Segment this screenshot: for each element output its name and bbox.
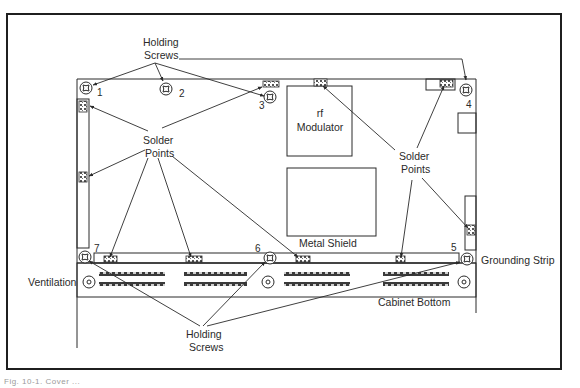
screw-number-4: 4: [466, 99, 472, 110]
screw-number-2: 2: [179, 88, 185, 99]
figure-frame: [7, 14, 561, 369]
holding-screws-top-label-line2: Screws: [144, 49, 178, 61]
screw-number-3: 3: [259, 100, 265, 111]
diagram-canvas: 1 2 3 4 5 6 7 Holding Screws Solder Poin…: [0, 0, 580, 388]
screw-5: [461, 253, 473, 265]
screw-number-7: 7: [94, 243, 100, 254]
holding-screws-bottom-label-line2: Screws: [189, 341, 223, 353]
screw-6: [264, 252, 276, 264]
holding-screws-bottom-label-line1: Holding: [186, 328, 222, 340]
figure-caption: Fig. 10-1. Cover ...: [4, 377, 80, 388]
cabinet-bottom-label: Cabinet Bottom: [378, 296, 451, 308]
holding-screws-top-label-line1: Holding: [143, 36, 179, 48]
solder-points-right-label-line2: Points: [401, 163, 430, 175]
solder-points-left-label-line1: Solder: [143, 134, 174, 146]
screw-number-1: 1: [97, 87, 103, 98]
rf-modulator-label-line2: Modulator: [297, 121, 344, 133]
screw-number-6: 6: [255, 243, 261, 254]
screw-2: [160, 83, 172, 95]
rf-modulator-label-line1: rf: [317, 107, 323, 119]
solder-points-left-label-line2: Points: [145, 147, 174, 159]
screw-4: [460, 84, 472, 96]
solder-points-right-label-line1: Solder: [399, 150, 430, 162]
screw-1: [80, 82, 92, 94]
ventilation-label: Ventilation: [28, 276, 77, 288]
diagram-figure: 1 2 3 4 5 6 7 Holding Screws Solder Poin…: [0, 0, 580, 388]
grounding-strip-label: Grounding Strip: [481, 254, 555, 266]
cabinet-bottom: [77, 253, 476, 297]
screw-number-5: 5: [451, 242, 457, 253]
metal-shield-label: Metal Shield: [299, 237, 357, 249]
screw-3: [264, 91, 276, 103]
metal-shield-box: [287, 168, 376, 236]
